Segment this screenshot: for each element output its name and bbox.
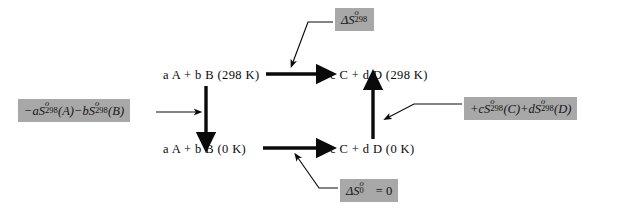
leader-bottom-callout (298, 158, 338, 188)
rterm-1-supsub: o298 (490, 100, 503, 113)
callout-bottom-subscript: 0 (360, 186, 364, 195)
rterm-1-species: (C) (503, 102, 520, 116)
callout-top-supsub: o298 (355, 11, 368, 24)
state-label-top-left: a A + b B (298 K) (163, 68, 260, 83)
term-2-supsub: o298 (95, 102, 108, 115)
callout-delta-s-0-zero: ΔSo0 = 0 (340, 179, 398, 202)
term-2-species: (B) (108, 104, 124, 118)
rterm-2-supsub: o298 (541, 100, 554, 113)
term-1-supsub: o298 (45, 102, 58, 115)
state-label-top-right: c C + d D (298 K) (330, 68, 428, 83)
rterm-2-species: (D) (554, 102, 571, 116)
state-label-bottom-right: c C + d D (0 K) (330, 142, 415, 157)
callout-top-symbol: ΔS (341, 13, 355, 27)
term-2-subscript: 298 (95, 106, 108, 115)
leader-right-callout (389, 104, 462, 117)
state-label-bottom-left: a A + b B (0 K) (163, 142, 246, 157)
term-1-subscript: 298 (45, 106, 58, 115)
callout-top-subscript: 298 (355, 15, 368, 24)
entropy-cycle-diagram: a A + b B (298 K) c C + d D (298 K) a A … (0, 0, 622, 209)
callout-reactant-entropies: −aSo298(A)−bSo298(B) (18, 99, 130, 122)
callout-bottom-suffix: = 0 (373, 184, 393, 198)
callout-bottom-supsub: o0 (360, 182, 373, 195)
callout-delta-s-298: ΔSo298 (335, 8, 374, 31)
leader-top-callout (293, 22, 333, 62)
rterm-2-subscript: 298 (541, 104, 554, 113)
callout-product-entropies: +cSo298(C)+dSo298(D) (464, 97, 577, 120)
callout-bottom-symbol: ΔS (346, 184, 360, 198)
rterm-1-subscript: 298 (490, 104, 503, 113)
term-1-species: (A) (58, 104, 74, 118)
